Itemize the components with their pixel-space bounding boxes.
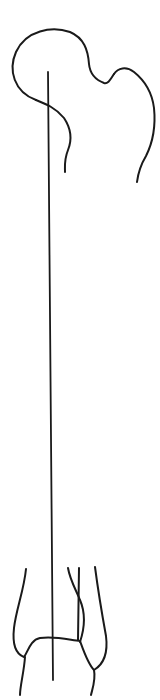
medial-condyle-outline [13,569,80,657]
intercondylar-left-outline [68,568,84,642]
femur-diagram [0,0,160,700]
medial-tail-outline [20,657,25,695]
diagram-svg [0,0,160,700]
lateral-tail-outline [91,670,95,695]
greater-trochanter-outline [114,68,155,182]
femoral-neck-lower-outline [36,100,71,172]
femoral-head-outline [13,29,114,100]
intercondylar-right-outline [78,568,79,640]
mechanical-axis-line [48,72,53,680]
